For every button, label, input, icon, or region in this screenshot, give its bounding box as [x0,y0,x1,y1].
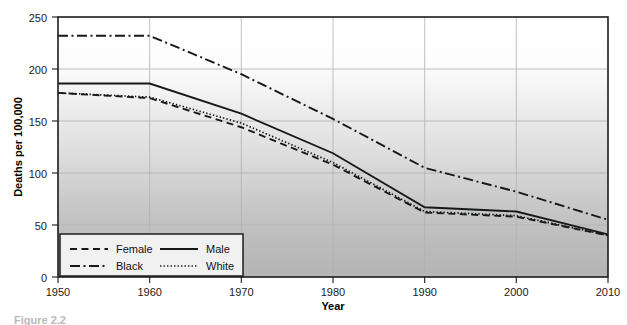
line-chart: 250 200 150 100 50 0 1950 1960 1970 1980… [0,0,627,325]
x-tick-labels: 1950 1960 1970 1980 1990 2000 2010 [46,286,620,298]
y-tick-label-0: 0 [41,272,47,284]
legend-label-white: White [206,260,234,272]
y-tick-label-150: 150 [29,116,47,128]
x-tick-marks [58,277,608,283]
x-tick-label-2010: 2010 [596,286,620,298]
x-tick-label-1990: 1990 [412,286,436,298]
y-tick-label-50: 50 [35,220,47,232]
y-axis-title: Deaths per 100,000 [12,97,24,197]
y-tick-label-100: 100 [29,168,47,180]
x-tick-label-1980: 1980 [321,286,345,298]
legend-label-black: Black [116,260,143,272]
legend[interactable]: Female Male Black White [60,234,243,276]
x-axis-title: Year [321,300,345,312]
legend-label-male: Male [206,243,230,255]
y-tick-labels: 250 200 150 100 50 0 [29,12,47,284]
x-tick-label-1950: 1950 [46,286,70,298]
legend-label-female: Female [116,243,153,255]
y-tick-label-200: 200 [29,64,47,76]
figure-container: 250 200 150 100 50 0 1950 1960 1970 1980… [0,0,627,325]
y-tick-marks [52,17,58,277]
y-tick-label-250: 250 [29,12,47,24]
x-tick-label-2000: 2000 [504,286,528,298]
x-tick-label-1960: 1960 [137,286,161,298]
figure-caption: Figure 2.2 [14,314,66,325]
x-tick-label-1970: 1970 [229,286,253,298]
